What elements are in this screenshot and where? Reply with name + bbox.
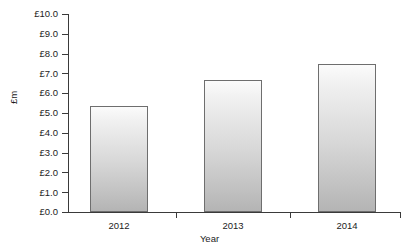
x-tick-label-2013: 2013	[203, 221, 263, 231]
bar-chart: £m £10.0 £9.0 £8.0 £7.0 £6.0 £5.0 £4.0 £…	[0, 0, 419, 248]
y-tick-label: £0.0	[40, 207, 59, 217]
y-tick-label: £7.0	[40, 69, 59, 79]
x-axis-title: Year	[0, 234, 419, 244]
bar-2013	[204, 80, 262, 212]
x-tick-mark	[290, 213, 291, 218]
y-tick-label: £3.0	[40, 148, 59, 158]
y-tick-label: £10.0	[34, 9, 58, 19]
x-axis-line	[68, 212, 401, 213]
y-tick-label: £1.0	[40, 188, 59, 198]
y-tick-label: £4.0	[40, 128, 59, 138]
x-tick-mark	[176, 213, 177, 218]
x-tick-label-2014: 2014	[317, 221, 377, 231]
bar-2012	[90, 106, 148, 212]
y-tick-label: £2.0	[40, 168, 59, 178]
bar-2014	[318, 64, 376, 212]
y-tick-label: £8.0	[40, 49, 59, 59]
y-axis-title: £m	[9, 91, 19, 104]
y-tick-label: £5.0	[40, 108, 59, 118]
y-axis-line	[68, 14, 69, 213]
y-tick-label: £6.0	[40, 88, 59, 98]
x-tick-label-2012: 2012	[89, 221, 149, 231]
y-tick-label: £9.0	[40, 29, 59, 39]
x-tick-mark	[400, 213, 401, 218]
